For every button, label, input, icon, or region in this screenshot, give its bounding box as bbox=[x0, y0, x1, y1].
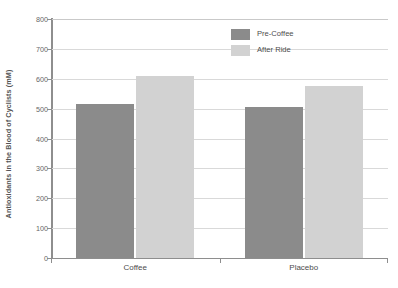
y-axis-tick-label: 300 bbox=[22, 164, 48, 173]
y-axis-tick-label: 100 bbox=[22, 224, 48, 233]
chart-legend: Pre-CoffeeAfter Ride bbox=[231, 28, 294, 56]
gridline bbox=[51, 49, 388, 50]
y-axis-tick-label: 500 bbox=[22, 104, 48, 113]
x-axis-label-placebo: Placebo bbox=[289, 263, 318, 272]
legend-item-pre-coffee[interactable]: Pre-Coffee bbox=[231, 28, 294, 40]
x-axis-label-coffee: Coffee bbox=[124, 263, 147, 272]
y-axis-tick-label: 200 bbox=[22, 194, 48, 203]
legend-item-after-ride[interactable]: After Ride bbox=[231, 44, 294, 56]
bar-placebo-after-ride bbox=[305, 86, 363, 258]
bar-chart: Antioxidants in the Blood of Cyclists (m… bbox=[0, 0, 398, 288]
y-axis-title: Antioxidants in the Blood of Cyclists (m… bbox=[0, 0, 16, 288]
x-axis-tick-mark bbox=[387, 258, 388, 263]
y-axis-tick-label: 600 bbox=[22, 74, 48, 83]
y-axis-tick-mark bbox=[47, 228, 52, 229]
legend-label: Pre-Coffee bbox=[257, 30, 294, 38]
gridline bbox=[51, 19, 388, 20]
bar-placebo-pre-coffee bbox=[245, 107, 303, 258]
y-axis-tick-labels: 0100200300400500600700800 bbox=[22, 0, 48, 288]
y-axis-tick-label: 800 bbox=[22, 15, 48, 24]
y-axis-tick-mark bbox=[47, 19, 52, 20]
y-axis-tick-mark bbox=[47, 168, 52, 169]
y-axis-tick-mark bbox=[47, 79, 52, 80]
x-axis-tick-mark bbox=[220, 258, 221, 263]
bar-coffee-after-ride bbox=[136, 76, 194, 258]
plot-area bbox=[51, 19, 388, 258]
legend-swatch-icon bbox=[231, 45, 250, 56]
y-axis-tick-label: 700 bbox=[22, 44, 48, 53]
bar-coffee-pre-coffee bbox=[76, 104, 134, 258]
legend-swatch-icon bbox=[231, 29, 250, 40]
y-axis-tick-mark bbox=[47, 109, 52, 110]
x-axis-tick-mark bbox=[51, 258, 52, 263]
legend-label: After Ride bbox=[257, 46, 291, 54]
y-axis-tick-mark bbox=[47, 139, 52, 140]
y-axis-tick-label: 0 bbox=[22, 254, 48, 263]
y-axis-tick-mark bbox=[47, 198, 52, 199]
x-axis-category-labels: CoffeePlacebo bbox=[51, 263, 388, 277]
y-axis-tick-label: 400 bbox=[22, 134, 48, 143]
gridline bbox=[51, 79, 388, 80]
y-axis-tick-mark bbox=[47, 49, 52, 50]
